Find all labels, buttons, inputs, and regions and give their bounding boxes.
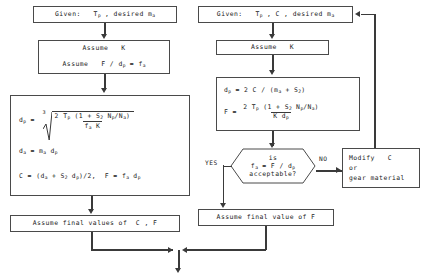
- left-arrow-formula-final: [88, 209, 94, 214]
- yes-connector-vertical: [223, 165, 225, 205]
- left-formula-c-f: C = (da + S2 dp)/2, F = fa dp: [19, 173, 140, 181]
- output-connector: [178, 250, 180, 270]
- left-formula-dp: dp = 3 2 Tp (1 + S2 Np/Na) fa K: [19, 111, 134, 131]
- right-arrow-assume-formula: [269, 70, 275, 75]
- modify-box: Modify C or gear material: [342, 148, 420, 188]
- right-given-box: Given: Tp , C , desired ma: [198, 6, 353, 23]
- radical-sign-icon: [43, 111, 52, 131]
- right-final-box: Assume final value of F: [198, 209, 334, 226]
- modify-line1: Modify C: [349, 155, 392, 162]
- left-assume-box: Assume K Assume F / dp = fa: [38, 40, 170, 74]
- left-formula-box: dp = 3 2 Tp (1 + S2 Np/Na) fa K da = ma …: [10, 95, 190, 196]
- right-formula-fraction: 2 Tp (1 + S2 Np/Na) K dp: [241, 104, 321, 120]
- flowchart-canvas: Given: Tp , desired ma Assume K Assume F…: [0, 0, 426, 279]
- yes-arrow: [220, 203, 226, 208]
- left-merge-vertical: [91, 232, 93, 250]
- right-formula-dp: dp = 2 C / (ma + S2): [224, 87, 305, 95]
- feedback-horizontal: [361, 14, 375, 16]
- no-arrow: [336, 167, 341, 173]
- right-assume-box: Assume K: [216, 40, 329, 55]
- output-arrow: [175, 268, 181, 273]
- left-merge-horizontal: [91, 249, 173, 251]
- right-formula-numerator: 2 Tp (1 + S2 Np/Na): [241, 104, 321, 112]
- right-final-text: Assume final value of F: [217, 214, 316, 221]
- feedback-vertical: [374, 14, 376, 148]
- left-given-box: Given: Tp , desired ma: [33, 6, 177, 23]
- left-assume-line2: Assume F / dp = fa: [63, 61, 146, 69]
- feedback-arrow: [355, 11, 360, 17]
- left-final-box: Assume final values of C , F: [10, 215, 180, 232]
- right-assume-line1: Assume K: [251, 44, 294, 51]
- left-formula-da: da = ma dp: [19, 148, 57, 156]
- decision-hexagon: is fa = F / dp acceptable?: [230, 148, 316, 184]
- no-label: NO: [319, 155, 327, 162]
- decision-line2: fa = F / dp: [251, 162, 295, 171]
- right-formula-box: dp = 2 C / (ma + S2) F = 2 Tp (1 + S2 Np…: [216, 77, 360, 131]
- decision-line3: acceptable?: [249, 170, 296, 178]
- left-arrow-given-assume: [101, 34, 107, 39]
- right-arrow-given-assume: [269, 34, 275, 39]
- left-arrow-assume-formula: [101, 88, 107, 93]
- modify-line3: gear material: [349, 175, 405, 182]
- cube-root-radical: 3 2 Tp (1 + S2 Np/Na) fa K: [39, 111, 134, 131]
- yes-connector-horizontal: [223, 166, 232, 168]
- right-given-text: Given: Tp , C , desired ma: [217, 11, 334, 19]
- right-formula-f: F = 2 Tp (1 + S2 Np/Na) K dp: [224, 104, 321, 120]
- left-merge-arrow: [168, 247, 173, 253]
- left-given-text: Given: Tp , desired ma: [55, 11, 155, 19]
- decision-line1: is: [269, 154, 278, 162]
- right-formula-denominator: K dp: [271, 112, 291, 121]
- right-merge-vertical: [265, 226, 267, 250]
- yes-label: YES: [205, 159, 218, 166]
- left-final-text: Assume final values of C , F: [33, 220, 158, 227]
- right-merge-arrow: [182, 247, 187, 253]
- right-merge-horizontal: [184, 249, 266, 251]
- modify-line2: or: [349, 165, 358, 172]
- left-assume-line1: Assume K: [83, 45, 126, 52]
